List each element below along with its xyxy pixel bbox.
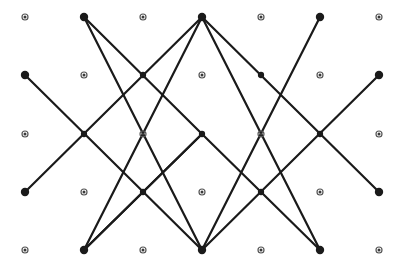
endpoint-node-top-right-node — [316, 13, 324, 21]
crossing-node-crossing-r3c4 — [199, 131, 205, 137]
lattice-canvas — [0, 0, 404, 267]
small-node-core — [378, 16, 381, 19]
endpoint-node-bottom-right-node — [316, 246, 324, 254]
small-node-core — [24, 249, 27, 252]
endpoint-node-left-lower-node — [21, 188, 29, 196]
small-node-core — [142, 249, 145, 252]
crossing-node-crossing-r3c6 — [317, 131, 323, 137]
crossing-node-crossing-r2c3 — [140, 72, 146, 78]
lattice-figure — [0, 0, 404, 267]
small-node-core — [201, 74, 204, 77]
crossing-node-crossing-r4c3 — [140, 189, 146, 195]
small-node-core — [319, 191, 322, 194]
small-node-core — [260, 16, 263, 19]
small-node-core — [83, 74, 86, 77]
endpoint-node-bottom-left-node — [80, 246, 88, 254]
small-node-core — [24, 16, 27, 19]
endpoint-node-bottom-valley-node — [198, 246, 206, 254]
small-node-core — [24, 133, 27, 136]
small-node-core — [83, 191, 86, 194]
endpoint-node-right-lower-node — [375, 188, 383, 196]
small-node-core — [142, 133, 145, 136]
endpoint-node-top-apex-node — [198, 13, 206, 21]
small-node-core — [142, 16, 145, 19]
small-node-core — [201, 191, 204, 194]
small-node-core — [260, 133, 263, 136]
endpoint-node-right-upper-node — [375, 71, 383, 79]
endpoint-node-top-left-node — [80, 13, 88, 21]
small-node-core — [378, 133, 381, 136]
crossing-node-crossing-r4c5 — [258, 189, 264, 195]
endpoint-node-left-upper-node — [21, 71, 29, 79]
small-node-core — [260, 249, 263, 252]
small-node-core — [319, 74, 322, 77]
crossing-node-crossing-r3c2 — [81, 131, 87, 137]
small-node-core — [378, 249, 381, 252]
crossing-node-crossing-r2c5 — [258, 72, 264, 78]
